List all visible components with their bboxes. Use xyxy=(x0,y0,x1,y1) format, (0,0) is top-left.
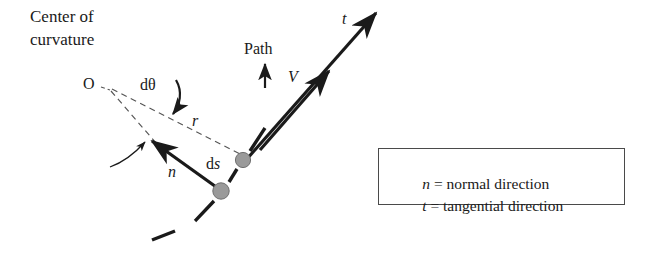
diagram-canvas: Center of curvature O dθ r Path V t n ds… xyxy=(0,0,653,253)
particle-dot-upper xyxy=(235,152,250,167)
center-of-curvature-label-line2: curvature xyxy=(30,30,94,49)
origin-connector-dash xyxy=(101,87,110,90)
arc-length-label: ds xyxy=(206,155,220,173)
d-theta-pointer-arrow xyxy=(173,80,180,114)
radius-label: r xyxy=(192,112,198,130)
particle-dot-lower xyxy=(213,183,229,199)
legend-box: n = normal direction t = tangential dire… xyxy=(378,148,625,205)
tangential-label: t xyxy=(342,10,346,28)
intersection-pointer-arrow xyxy=(110,142,145,167)
path-label: Path xyxy=(244,40,272,58)
path-dash-segment-low xyxy=(195,201,214,221)
path-dash-segment-bottom xyxy=(152,231,175,240)
origin-label: O xyxy=(83,75,95,93)
legend-text-tangential: tangential direction xyxy=(443,197,563,214)
legend-equals-t: = xyxy=(427,197,444,214)
path-dash-segment-mid xyxy=(229,169,237,182)
d-theta-label: dθ xyxy=(140,76,156,94)
arc-length-d: d xyxy=(206,155,214,172)
arc-length-s: s xyxy=(214,155,220,172)
particle-path-curve xyxy=(152,128,265,240)
center-of-curvature-label-line1: Center of xyxy=(30,7,94,26)
normal-label: n xyxy=(168,163,176,181)
radius-line-lower xyxy=(111,91,156,143)
velocity-label: V xyxy=(288,68,298,86)
legend-row-tangential: t = tangential direction xyxy=(399,179,563,233)
